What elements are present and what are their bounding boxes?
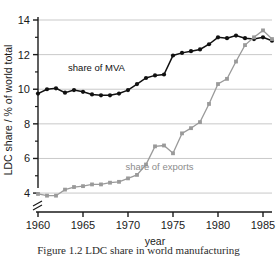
y-tick-label-10: 10 <box>18 83 30 95</box>
data-point-mva-1963 <box>63 91 67 95</box>
data-point-mva-1970 <box>126 88 130 92</box>
data-point-mva-1972 <box>144 76 148 80</box>
data-point-exports-1965 <box>81 184 85 188</box>
data-point-mva-1981 <box>225 36 229 40</box>
data-point-mva-1983 <box>243 36 247 40</box>
data-point-mva-1980 <box>216 35 220 39</box>
data-point-exports-1980 <box>216 82 220 86</box>
data-point-mva-1979 <box>207 42 211 46</box>
data-point-exports-1969 <box>117 180 121 184</box>
data-point-mva-1985 <box>261 35 265 39</box>
data-point-exports-1964 <box>72 185 76 189</box>
data-point-exports-1983 <box>243 43 247 47</box>
data-point-exports-1960 <box>36 192 40 196</box>
data-point-mva-1960 <box>36 91 40 95</box>
data-point-exports-1974 <box>162 144 166 148</box>
data-point-exports-1973 <box>153 144 157 148</box>
data-point-exports-1981 <box>225 77 229 81</box>
series-label-mva: share of MVA <box>68 62 126 73</box>
data-point-exports-1970 <box>126 176 130 180</box>
data-point-exports-1979 <box>207 102 211 106</box>
data-point-exports-1961 <box>45 194 49 198</box>
x-tick-label-1985: 1985 <box>251 219 275 231</box>
data-point-exports-1968 <box>108 181 112 185</box>
data-point-mva-1961 <box>45 87 49 91</box>
data-point-exports-1971 <box>135 173 139 177</box>
data-point-mva-1965 <box>81 90 85 94</box>
data-point-mva-1973 <box>153 73 157 77</box>
series-label-exports: share of exports <box>125 161 193 172</box>
data-point-mva-1964 <box>72 88 76 92</box>
data-point-exports-1976 <box>180 131 184 135</box>
x-tick-label-1960: 1960 <box>26 219 50 231</box>
data-point-exports-1985 <box>261 28 265 32</box>
y-tick-label-4: 4 <box>24 187 30 199</box>
data-point-mva-1982 <box>234 33 238 37</box>
data-point-mva-1969 <box>117 91 121 95</box>
data-point-exports-1984 <box>252 35 256 39</box>
data-point-exports-1967 <box>99 183 103 187</box>
x-tick-label-1970: 1970 <box>116 219 140 231</box>
data-point-mva-1968 <box>108 93 112 97</box>
axis-break-icon <box>33 201 42 210</box>
data-point-mva-1974 <box>162 72 166 76</box>
y-tick-label-6: 6 <box>24 152 30 164</box>
x-tick-label-1975: 1975 <box>161 219 185 231</box>
data-point-exports-1962 <box>54 194 58 198</box>
data-point-exports-1982 <box>234 60 238 64</box>
data-point-exports-1966 <box>90 183 94 187</box>
x-tick-label-1980: 1980 <box>206 219 230 231</box>
y-axis-title: LDC share / % of world total <box>2 45 14 176</box>
data-point-exports-1975 <box>171 151 175 155</box>
data-point-exports-1986 <box>270 37 274 41</box>
data-point-exports-1963 <box>63 188 67 192</box>
data-point-mva-1975 <box>171 53 175 57</box>
data-point-exports-1978 <box>198 120 202 124</box>
data-point-mva-1977 <box>189 49 193 53</box>
y-tick-label-12: 12 <box>18 49 30 61</box>
data-point-mva-1962 <box>54 86 58 90</box>
y-tick-label-8: 8 <box>24 118 30 130</box>
figure-caption: Figure 1.2 LDC share in world manufactur… <box>0 244 277 256</box>
data-point-mva-1967 <box>99 93 103 97</box>
data-point-exports-1977 <box>189 126 193 130</box>
data-point-mva-1966 <box>90 92 94 96</box>
data-point-mva-1978 <box>198 47 202 51</box>
data-point-mva-1971 <box>135 82 139 86</box>
y-tick-label-14: 14 <box>18 14 30 26</box>
x-tick-label-1965: 1965 <box>71 219 95 231</box>
data-point-mva-1976 <box>180 51 184 55</box>
